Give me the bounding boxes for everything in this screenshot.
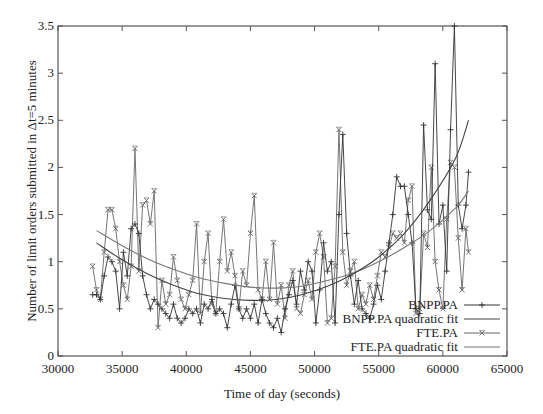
x-tick-label: 30000: [42, 361, 75, 376]
x-tick-label: 65000: [491, 361, 524, 376]
legend-label-fte-fit: FTE.PA quadratic fit: [351, 339, 459, 354]
y-tick-label: 2.5: [38, 112, 54, 127]
x-tick-label: 35000: [106, 361, 139, 376]
y-tick-label: 2: [48, 159, 55, 174]
chart: 3000035000400004500050000550006000065000…: [0, 0, 543, 414]
x-tick-label: 45000: [234, 361, 267, 376]
y-tick-label: 0.5: [38, 301, 54, 316]
y-tick-label: 1: [48, 254, 55, 269]
x-tick-label: 60000: [427, 361, 460, 376]
legend-label-bnpp-fit: BNPP.PA quadratic fit: [343, 311, 459, 326]
x-tick-label: 40000: [170, 361, 203, 376]
y-tick-label: 1.5: [38, 207, 54, 222]
legend: BNPP.PA BNPP.PA quadratic fit FTE.PA FTE…: [343, 297, 500, 354]
series-layer: [90, 23, 472, 335]
y-tick-label: 3.5: [38, 18, 54, 33]
y-tick-label: 0: [48, 348, 55, 363]
legend-swatches: [464, 302, 500, 347]
legend-label-bnpp: BNPP.PA: [408, 297, 458, 312]
x-tick-label: 50000: [298, 361, 331, 376]
y-tick-label: 3: [48, 65, 55, 80]
x-tick-label: 55000: [362, 361, 395, 376]
y-axis-title: Number of limit orders submitted in Δt=5…: [24, 60, 39, 322]
x-axis-title: Time of day (seconds): [224, 386, 340, 401]
legend-label-fte: FTE.PA: [416, 325, 458, 340]
